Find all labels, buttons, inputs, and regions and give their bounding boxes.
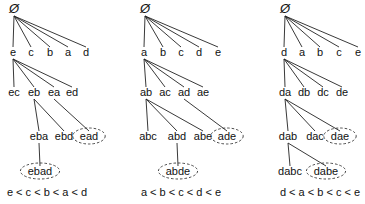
node-dabe: dabe bbox=[314, 165, 338, 177]
edge-abd-abde bbox=[177, 143, 178, 166]
edge-root-a bbox=[144, 16, 145, 47]
node-e: e bbox=[355, 46, 361, 58]
node-c: c bbox=[336, 46, 342, 58]
node-ea: ea bbox=[48, 86, 61, 98]
node-ed: ed bbox=[66, 86, 78, 98]
node-dae: dae bbox=[331, 130, 349, 142]
node-c: c bbox=[28, 46, 34, 58]
edge-d-dc bbox=[284, 59, 323, 87]
node-de: de bbox=[336, 86, 348, 98]
edge-root-d bbox=[14, 16, 86, 47]
node-dab: dab bbox=[279, 130, 297, 142]
node-ae: ae bbox=[197, 86, 209, 98]
edge-da-dab bbox=[285, 99, 288, 131]
node-dac: dac bbox=[306, 130, 324, 142]
node-abde: abde bbox=[166, 165, 190, 177]
edge-dab-dabc bbox=[288, 143, 290, 166]
node-ebd: ebd bbox=[55, 130, 73, 142]
node-abe: abe bbox=[194, 130, 212, 142]
edge-da-dac bbox=[285, 99, 315, 131]
edge-root-b bbox=[285, 16, 320, 47]
edge-d-da bbox=[284, 59, 285, 87]
edge-a-ac bbox=[144, 59, 165, 87]
edge-e-ea bbox=[13, 59, 54, 87]
node-ad: ad bbox=[178, 86, 190, 98]
ordering-caption: a < b < c < d < e bbox=[141, 186, 221, 198]
node-ead: ead bbox=[80, 130, 98, 142]
edge-root-c bbox=[145, 16, 181, 47]
edge-e-ec bbox=[13, 59, 14, 87]
edge-root-b bbox=[14, 16, 50, 47]
edge-d-db bbox=[284, 59, 304, 87]
ordering-caption: d < a < b < c < e bbox=[280, 186, 360, 198]
edge-da-dae bbox=[285, 99, 340, 131]
empty-set-root: Ø bbox=[8, 1, 20, 16]
node-eb: eb bbox=[28, 86, 40, 98]
edge-root-d bbox=[284, 16, 285, 47]
node-ebad: ebad bbox=[28, 165, 52, 177]
node-a: a bbox=[141, 46, 148, 58]
tree-a-first: Øabcdeabacadaeabcabdabeadeabdea < b < c … bbox=[139, 1, 243, 198]
node-ec: ec bbox=[8, 86, 20, 98]
node-d: d bbox=[196, 46, 202, 58]
set-enumeration-tree-diagram: Øecbadecebeaedebaebdeadebade < c < b < a… bbox=[0, 0, 365, 204]
edge-root-e bbox=[285, 16, 358, 47]
node-dc: dc bbox=[317, 86, 329, 98]
edge-ad-ade bbox=[184, 99, 227, 131]
node-d: d bbox=[83, 46, 89, 58]
tree-d-first: Ødabcedadbdcdedabdacdaedabcdabed < a < b… bbox=[278, 1, 361, 198]
node-b: b bbox=[47, 46, 53, 58]
edge-root-e bbox=[145, 16, 218, 47]
node-b: b bbox=[317, 46, 323, 58]
node-ade: ade bbox=[218, 130, 236, 142]
node-e: e bbox=[215, 46, 221, 58]
edge-ab-abc bbox=[146, 99, 148, 131]
edge-e-ed bbox=[13, 59, 72, 87]
node-ac: ac bbox=[159, 86, 171, 98]
node-ab: ab bbox=[140, 86, 152, 98]
edge-a-ab bbox=[144, 59, 146, 87]
tree-e-first: Øecbadecebeaedebaebdeadebade < c < b < a… bbox=[7, 1, 105, 198]
edge-e-eb bbox=[13, 59, 34, 87]
edge-d-de bbox=[284, 59, 342, 87]
edge-dab-dabe bbox=[288, 143, 326, 166]
node-a: a bbox=[65, 46, 72, 58]
node-eba: eba bbox=[30, 130, 49, 142]
node-d: d bbox=[281, 46, 287, 58]
edge-ab-abe bbox=[146, 99, 203, 131]
edge-root-d bbox=[145, 16, 199, 47]
ordering-caption: e < c < b < a < d bbox=[7, 186, 87, 198]
node-abc: abc bbox=[139, 130, 157, 142]
node-a: a bbox=[299, 46, 306, 58]
node-da: da bbox=[279, 86, 292, 98]
node-e: e bbox=[10, 46, 16, 58]
edge-eba-ebad bbox=[39, 143, 40, 166]
edge-root-e bbox=[13, 16, 14, 47]
node-dabc: dabc bbox=[278, 165, 302, 177]
edge-a-ae bbox=[144, 59, 203, 87]
edge-a-ad bbox=[144, 59, 184, 87]
node-db: db bbox=[298, 86, 310, 98]
empty-set-root: Ø bbox=[139, 1, 151, 16]
node-c: c bbox=[178, 46, 184, 58]
empty-set-root: Ø bbox=[279, 1, 291, 16]
node-b: b bbox=[160, 46, 166, 58]
edge-ab-abd bbox=[146, 99, 177, 131]
node-abd: abd bbox=[168, 130, 186, 142]
